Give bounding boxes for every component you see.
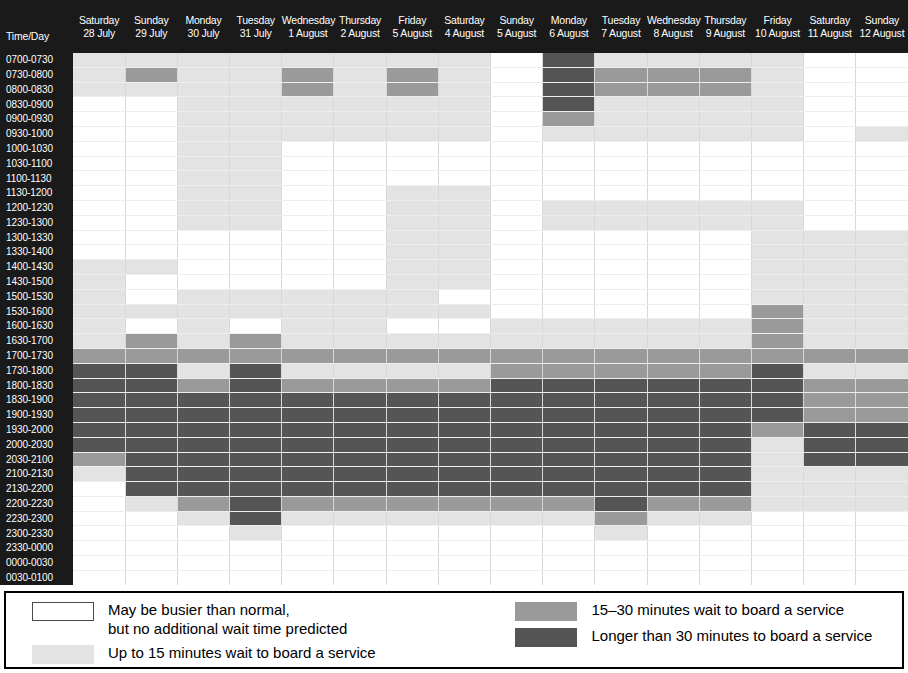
heatmap-cell <box>282 408 334 423</box>
heatmap-cell <box>177 556 229 571</box>
legend-column-left: May be busier than normal,but no additio… <box>6 593 507 667</box>
heatmap-cell <box>856 334 908 349</box>
table-row: 0800-0830 <box>0 82 908 97</box>
heatmap-cell <box>282 334 334 349</box>
day-header-date: 9 August <box>699 27 751 40</box>
heatmap-cell <box>699 496 751 511</box>
heatmap-cell <box>334 393 386 408</box>
heatmap-cell <box>595 53 647 67</box>
heatmap-cell <box>386 260 438 275</box>
heatmap-cell <box>856 541 908 556</box>
heatmap-cell <box>491 378 543 393</box>
heatmap-cell <box>334 348 386 363</box>
heatmap-cell <box>177 319 229 334</box>
heatmap-cell <box>282 570 334 585</box>
heatmap-cell <box>856 378 908 393</box>
heatmap-cell <box>438 274 490 289</box>
heatmap-cell <box>491 437 543 452</box>
heatmap-cell <box>230 467 282 482</box>
heatmap-cell <box>334 156 386 171</box>
heatmap-cell <box>438 156 490 171</box>
day-header-date: 10 August <box>751 27 803 40</box>
heatmap-cell <box>595 422 647 437</box>
heatmap-cell <box>438 304 490 319</box>
heatmap-cell <box>699 126 751 141</box>
heatmap-cell <box>177 126 229 141</box>
heatmap-cell <box>386 511 438 526</box>
heatmap-cell <box>595 378 647 393</box>
heatmap-cell <box>282 304 334 319</box>
heatmap-cell <box>647 215 699 230</box>
heatmap-cell <box>543 393 595 408</box>
heatmap-cell <box>125 556 177 571</box>
heatmap-cell <box>751 422 803 437</box>
time-slot-label: 1400-1430 <box>0 260 73 275</box>
legend-label: 15–30 minutes wait to board a service <box>591 600 844 619</box>
heatmap-cell <box>804 245 856 260</box>
heatmap-cell <box>543 541 595 556</box>
legend-item: May be busier than normal,but no additio… <box>32 600 507 638</box>
heatmap-cell <box>230 393 282 408</box>
heatmap-cell <box>125 274 177 289</box>
day-header-date: 2 August <box>334 27 386 40</box>
heatmap-cell <box>804 230 856 245</box>
heatmap-cell <box>73 274 125 289</box>
heatmap-cell <box>386 437 438 452</box>
day-header-date: 5 August <box>386 27 438 40</box>
heatmap-cell <box>751 511 803 526</box>
heatmap-cell <box>334 422 386 437</box>
heatmap-cell <box>543 289 595 304</box>
heatmap-cell <box>543 334 595 349</box>
heatmap-cell <box>595 274 647 289</box>
heatmap-cell <box>856 526 908 541</box>
heatmap-cell <box>438 141 490 156</box>
heatmap-cell <box>438 556 490 571</box>
heatmap-cell <box>751 97 803 112</box>
heatmap-cell <box>543 482 595 497</box>
heatmap-cell <box>751 53 803 67</box>
heatmap-cell <box>73 260 125 275</box>
heatmap-cell <box>438 541 490 556</box>
heatmap-cell <box>647 334 699 349</box>
heatmap-cell <box>491 496 543 511</box>
heatmap-cell <box>856 393 908 408</box>
heatmap-cell <box>177 289 229 304</box>
heatmap-cell <box>386 496 438 511</box>
heatmap-cell <box>595 82 647 97</box>
time-slot-label: 1500-1530 <box>0 289 73 304</box>
heatmap-cell <box>804 570 856 585</box>
heatmap-cell <box>647 67 699 82</box>
heatmap-cell <box>647 496 699 511</box>
heatmap-cell <box>334 126 386 141</box>
heatmap-cell <box>856 67 908 82</box>
heatmap-cell <box>230 171 282 186</box>
heatmap-cell <box>491 171 543 186</box>
heatmap-cell <box>543 200 595 215</box>
heatmap-cell <box>386 274 438 289</box>
legend-swatch-level-2 <box>515 602 577 621</box>
heatmap-cell <box>804 156 856 171</box>
heatmap-cell <box>491 334 543 349</box>
heatmap-cell <box>804 467 856 482</box>
heatmap-cell <box>699 363 751 378</box>
heatmap-cell <box>230 245 282 260</box>
table-row: 2300-2330 <box>0 526 908 541</box>
heatmap-cell <box>73 422 125 437</box>
heatmap-cell <box>595 304 647 319</box>
heatmap-cell <box>751 363 803 378</box>
heatmap-cell <box>699 452 751 467</box>
heatmap-cell <box>73 82 125 97</box>
time-slot-label: 0000-0030 <box>0 556 73 571</box>
table-row: 1200-1230 <box>0 200 908 215</box>
heatmap-cell <box>282 126 334 141</box>
heatmap-cell <box>230 215 282 230</box>
day-header-weekday: Wednesday <box>647 14 699 27</box>
heatmap-cell <box>543 363 595 378</box>
heatmap-cell <box>595 186 647 201</box>
heatmap-cell <box>438 260 490 275</box>
heatmap-cell <box>334 141 386 156</box>
heatmap-cell <box>856 274 908 289</box>
heatmap-cell <box>699 511 751 526</box>
table-row: 1600-1630 <box>0 319 908 334</box>
table-row: 0730-0800 <box>0 67 908 82</box>
